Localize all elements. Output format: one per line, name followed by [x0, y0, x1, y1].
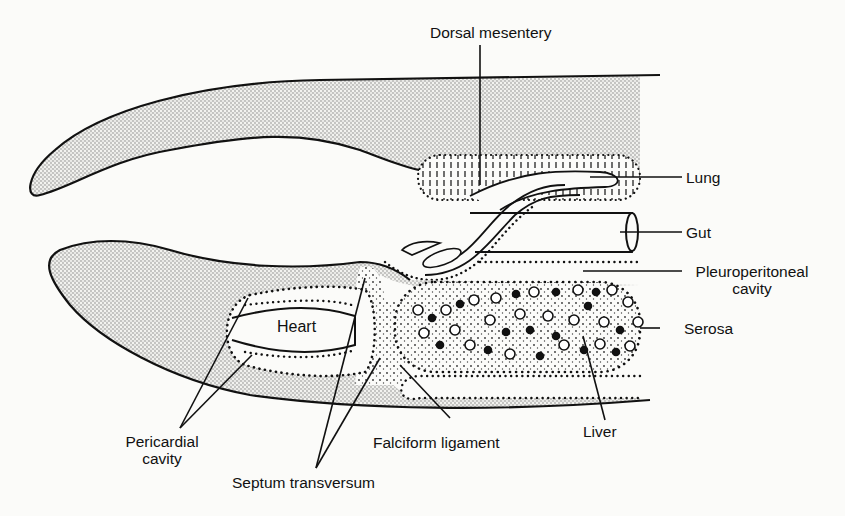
label-pericardial-line1: Pericardial: [118, 433, 206, 450]
label-pericardial-line2: cavity: [118, 450, 206, 467]
label-serosa: Serosa: [684, 320, 733, 337]
label-pleuroperitoneal-line2: cavity: [686, 280, 818, 297]
peritoneal-pocket: [401, 376, 640, 399]
gut: [470, 213, 632, 252]
label-pleuroperitoneal-cavity: Pleuroperitoneal cavity: [686, 263, 818, 297]
label-pleuroperitoneal-line1: Pleuroperitoneal: [686, 263, 818, 280]
label-dorsal-mesentery: Dorsal mesentery: [430, 24, 551, 41]
label-pericardial-cavity: Pericardial cavity: [118, 433, 206, 467]
label-septum-transversum: Septum transversum: [232, 474, 375, 491]
label-heart: Heart: [277, 318, 316, 335]
label-lung: Lung: [686, 169, 720, 186]
label-gut: Gut: [686, 224, 711, 241]
label-falciform-ligament: Falciform ligament: [373, 434, 500, 451]
label-liver: Liver: [583, 423, 617, 440]
